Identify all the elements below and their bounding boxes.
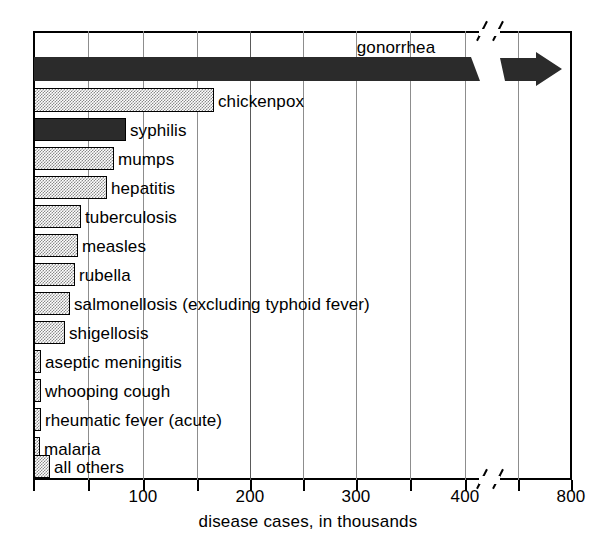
bar-measles [34, 234, 78, 257]
bar-rheumatic-fever [34, 408, 41, 431]
tick-0 [33, 480, 35, 491]
bar-aseptic-meningitis [34, 350, 41, 373]
bar-label-rheumatic-fever: rheumatic fever (acute) [45, 412, 222, 429]
tick-600 [518, 480, 520, 491]
tick-label-300: 300 [342, 487, 371, 507]
bar-label-whooping-cough: whooping cough [45, 383, 170, 400]
bar-chart: gonorrhea chickenpox syphilis mumps hepa… [0, 0, 616, 541]
gridline-350 [410, 31, 411, 480]
tick-label-100: 100 [129, 487, 158, 507]
tick-label-400: 400 [451, 487, 480, 507]
bar-label-aseptic-meningitis: aseptic meningitis [45, 354, 182, 371]
tick-150 [197, 480, 199, 491]
bar-label-rubella: rubella [79, 267, 131, 284]
bar-label-tuberculosis: tuberculosis [85, 209, 177, 226]
tick-250 [303, 480, 305, 491]
bar-all-others [34, 455, 50, 478]
bar-label-chickenpox: chickenpox [218, 93, 304, 110]
x-axis-title: disease cases, in thousands [0, 512, 616, 532]
gridline-600 [518, 31, 519, 480]
tick-label-800: 800 [557, 487, 586, 507]
bar-label-all-others: all others [54, 459, 124, 476]
tick-350 [410, 480, 412, 491]
tick-50 [88, 480, 90, 491]
bar-mumps [34, 147, 114, 170]
gridline-300 [356, 31, 357, 480]
bar-tuberculosis [34, 205, 81, 228]
axis-break-gap-top [479, 29, 500, 36]
bar-label-syphilis: syphilis [130, 122, 187, 139]
bar-label-measles: measles [82, 238, 146, 255]
bar-label-hepatitis: hepatitis [111, 180, 175, 197]
bar-label-gonorrhea: gonorrhea [357, 38, 435, 58]
bar-chickenpox [34, 88, 214, 112]
bar-salmonellosis [34, 292, 70, 315]
bar-shigellosis [34, 321, 65, 344]
bar-label-salmonellosis: salmonellosis (excluding typhoid fever) [74, 296, 370, 313]
bar-whooping-cough [34, 379, 41, 402]
bar-gonorrhea-arrow [500, 52, 562, 86]
bar-label-shigellosis: shigellosis [69, 325, 149, 342]
tick-label-200: 200 [236, 487, 265, 507]
bar-label-malaria: malaria [44, 441, 100, 458]
bar-syphilis [34, 118, 126, 141]
bar-label-mumps: mumps [118, 151, 174, 168]
bar-rubella [34, 263, 75, 286]
axis-break-gap [479, 476, 500, 484]
bar-gonorrhea [34, 57, 480, 81]
bar-hepatitis [34, 176, 107, 199]
gridline-400 [465, 31, 466, 480]
